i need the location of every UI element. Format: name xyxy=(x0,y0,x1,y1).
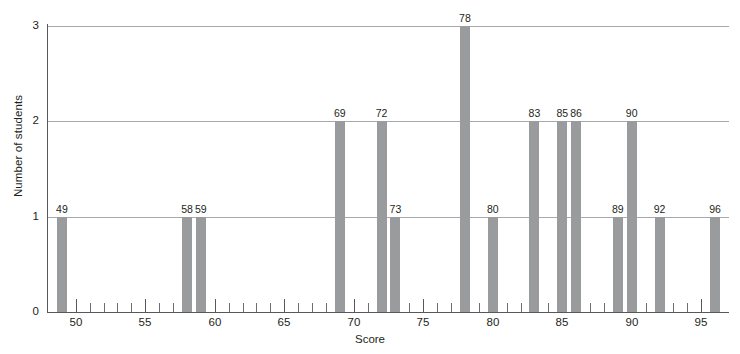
x-tick-67 xyxy=(312,303,313,312)
bar-value-label-83: 83 xyxy=(519,108,549,119)
bar-49 xyxy=(57,217,67,312)
gridline-y-3 xyxy=(48,26,729,27)
x-tick-65 xyxy=(284,299,285,312)
x-tick-81 xyxy=(507,303,508,312)
bar-83 xyxy=(529,121,539,312)
x-tick-84 xyxy=(548,303,549,312)
bar-92 xyxy=(655,217,665,312)
bar-85 xyxy=(557,121,567,312)
bar-90 xyxy=(627,121,637,312)
bar-value-label-49: 49 xyxy=(47,204,77,215)
x-tick-label-95: 95 xyxy=(686,316,716,329)
y-tick-label-1: 1 xyxy=(17,211,39,223)
x-tick-63 xyxy=(256,303,257,312)
y-axis-title: Number of students xyxy=(12,76,24,216)
bar-value-label-69: 69 xyxy=(325,108,355,119)
x-tick-91 xyxy=(646,303,647,312)
x-tick-50 xyxy=(76,299,77,312)
x-tick-label-85: 85 xyxy=(547,316,577,329)
bar-value-label-80: 80 xyxy=(478,204,508,215)
x-tick-87 xyxy=(590,303,591,312)
x-tick-60 xyxy=(215,299,216,312)
x-tick-95 xyxy=(701,299,702,312)
x-tick-label-60: 60 xyxy=(200,316,230,329)
x-tick-82 xyxy=(521,303,522,312)
bar-value-label-96: 96 xyxy=(700,204,730,215)
x-axis-title: Score xyxy=(0,333,740,345)
bar-value-label-92: 92 xyxy=(645,204,675,215)
x-tick-55 xyxy=(145,299,146,312)
x-tick-61 xyxy=(229,303,230,312)
x-tick-79 xyxy=(479,303,480,312)
bar-value-label-78: 78 xyxy=(450,13,480,24)
x-tick-label-65: 65 xyxy=(269,316,299,329)
x-tick-74 xyxy=(409,303,410,312)
x-tick-76 xyxy=(437,303,438,312)
chart-container: Number of students Score 0123 5055606570… xyxy=(0,0,740,354)
x-tick-54 xyxy=(131,303,132,312)
x-tick-62 xyxy=(243,303,244,312)
y-tick-label-2: 2 xyxy=(17,115,39,127)
bar-value-label-86: 86 xyxy=(561,108,591,119)
bar-96 xyxy=(710,217,720,312)
x-tick-71 xyxy=(368,303,369,312)
x-tick-53 xyxy=(117,303,118,312)
x-tick-66 xyxy=(298,303,299,312)
x-tick-68 xyxy=(326,303,327,312)
x-tick-label-80: 80 xyxy=(478,316,508,329)
x-tick-77 xyxy=(451,303,452,312)
bar-89 xyxy=(613,217,623,312)
x-tick-70 xyxy=(354,299,355,312)
bar-72 xyxy=(377,121,387,312)
x-tick-label-90: 90 xyxy=(617,316,647,329)
bar-86 xyxy=(571,121,581,312)
bar-value-label-59: 59 xyxy=(186,204,216,215)
bar-69 xyxy=(335,121,345,312)
y-tick-label-3: 3 xyxy=(17,20,39,32)
bar-78 xyxy=(460,26,470,312)
x-tick-label-75: 75 xyxy=(408,316,438,329)
x-tick-57 xyxy=(173,303,174,312)
x-tick-64 xyxy=(270,303,271,312)
x-tick-94 xyxy=(687,303,688,312)
x-tick-52 xyxy=(104,303,105,312)
x-tick-51 xyxy=(90,303,91,312)
bar-80 xyxy=(488,217,498,312)
bar-58 xyxy=(182,217,192,312)
x-tick-88 xyxy=(604,303,605,312)
y-tick-label-0: 0 xyxy=(17,306,39,318)
x-tick-93 xyxy=(673,303,674,312)
bar-value-label-72: 72 xyxy=(367,108,397,119)
bar-73 xyxy=(390,217,400,312)
bar-value-label-90: 90 xyxy=(617,108,647,119)
x-tick-label-70: 70 xyxy=(339,316,369,329)
x-tick-label-55: 55 xyxy=(130,316,160,329)
x-tick-label-50: 50 xyxy=(61,316,91,329)
bar-59 xyxy=(196,217,206,312)
x-tick-56 xyxy=(159,303,160,312)
x-tick-75 xyxy=(423,299,424,312)
bar-value-label-73: 73 xyxy=(380,204,410,215)
x-axis-line xyxy=(47,312,729,313)
y-axis-line xyxy=(47,24,48,313)
